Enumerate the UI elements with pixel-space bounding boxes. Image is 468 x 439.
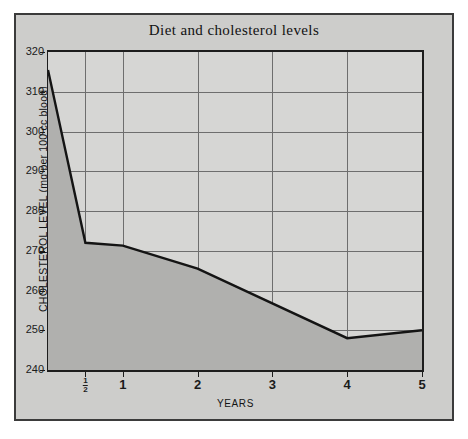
x-axis-tick-label: 3 (269, 377, 276, 392)
x-axis-tick-label: 12 (83, 377, 87, 394)
plot-border-bottom (47, 370, 424, 372)
x-axis-tick-label: 4 (344, 377, 351, 392)
x-axis-tick-label: 5 (418, 377, 425, 392)
y-axis-tick-mark (40, 52, 45, 53)
chart-frame: Diet and cholesterol levels 240250260270… (14, 13, 454, 421)
x-axis-title: YEARS (47, 398, 424, 409)
plot-border-right (422, 50, 424, 372)
y-axis-tick-mark (40, 370, 45, 371)
x-axis-tick-label: 2 (194, 377, 201, 392)
x-axis-tick-label: 1 (119, 377, 126, 392)
chart-title: Diet and cholesterol levels (16, 22, 452, 39)
y-axis-tick-label: 240 (26, 363, 44, 375)
data-series-area (48, 52, 422, 370)
